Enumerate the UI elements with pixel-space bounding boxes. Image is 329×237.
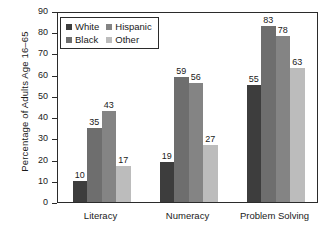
y-axis-tick-label: 40 [38, 112, 48, 122]
legend-item: Other [106, 34, 151, 45]
x-axis-group-label: Numeracy [166, 210, 209, 221]
legend-label: White [75, 21, 99, 32]
bar: 56 [189, 83, 204, 202]
bar: 27 [203, 145, 218, 202]
legend-swatch-icon [66, 37, 72, 43]
legend-item: White [66, 21, 99, 32]
x-axis-group-label: Problem Solving [240, 210, 309, 221]
bar: 78 [276, 36, 291, 202]
bar: 10 [73, 181, 88, 202]
bar-value-label: 17 [118, 155, 128, 165]
bar: 17 [116, 166, 131, 202]
y-axis-tick-label: 0 [43, 197, 48, 207]
y-axis-tick-mark [52, 203, 57, 204]
bar: 55 [247, 85, 262, 202]
y-axis-tick-label: 20 [38, 155, 48, 165]
bar-value-label: 59 [176, 66, 186, 76]
legend-swatch-icon [106, 37, 112, 43]
y-axis-tick-label: 50 [38, 91, 48, 101]
bar-value-label: 43 [104, 100, 114, 110]
legend-label: Black [75, 34, 98, 45]
legend-label: Other [115, 34, 139, 45]
bar-value-label: 35 [89, 117, 99, 127]
bar: 19 [160, 162, 175, 202]
legend-grid: WhiteHispanicBlackOther [66, 21, 152, 45]
bar-chart: Percentage of Adults Age 16–65 010203040… [0, 0, 329, 237]
bar-value-label: 83 [263, 15, 273, 25]
y-axis-tick-label: 30 [38, 133, 48, 143]
bar: 63 [290, 68, 305, 202]
y-axis-tick-label: 60 [38, 70, 48, 80]
bar-value-label: 63 [292, 57, 302, 67]
y-axis-tick-label: 80 [38, 27, 48, 37]
bar: 59 [174, 77, 189, 202]
legend-swatch-icon [66, 24, 72, 30]
bar: 35 [87, 128, 102, 202]
legend-item: Black [66, 34, 99, 45]
legend-item: Hispanic [106, 21, 151, 32]
bar-value-label: 78 [278, 25, 288, 35]
bar-value-label: 10 [75, 170, 85, 180]
y-axis: 0102030405060708090 [0, 0, 57, 237]
y-axis-tick-label: 90 [38, 6, 48, 16]
bar: 43 [102, 111, 117, 202]
bar: 83 [261, 26, 276, 202]
bar-value-label: 19 [162, 151, 172, 161]
legend-label: Hispanic [115, 21, 151, 32]
y-axis-tick-label: 70 [38, 48, 48, 58]
x-axis-group-label: Literacy [84, 210, 117, 221]
bar-value-label: 56 [191, 72, 201, 82]
bar-value-label: 55 [249, 74, 259, 84]
legend-swatch-icon [106, 24, 112, 30]
bar-value-label: 27 [205, 134, 215, 144]
y-axis-tick-label: 10 [38, 176, 48, 186]
legend: WhiteHispanicBlackOther [60, 17, 159, 49]
